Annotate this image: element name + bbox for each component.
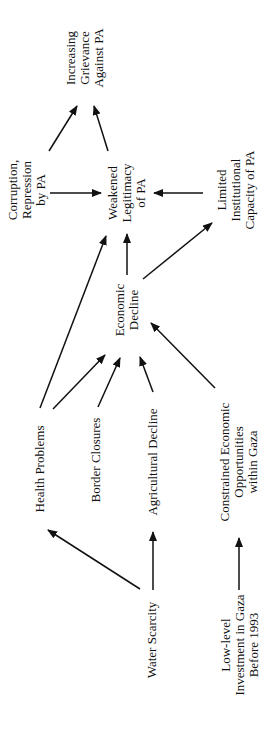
node-line: Capacity of PA	[243, 151, 257, 230]
node-line: Water Scarcity	[145, 602, 159, 679]
node-line: Repression	[20, 160, 34, 220]
arrow-economic-to-capacity	[143, 223, 212, 279]
node-line: Decline	[127, 284, 141, 337]
arrow-border-to-economic	[98, 358, 120, 407]
node-low-level-investment: Low-level Investment in Gaza Before 1993	[219, 594, 261, 695]
causal-diagram: Increasing Grievance Against PA Corrupti…	[0, 0, 278, 737]
arrow-health-to-economic	[53, 355, 105, 409]
node-agricultural-decline: Agricultural Decline	[146, 408, 160, 515]
node-line: Economic	[113, 284, 127, 337]
node-line: Against PA	[92, 28, 106, 87]
node-limited-capacity: Limited Institutional Capacity of PA	[215, 151, 257, 230]
node-weakened-legitimacy: Weakened Legitimacy of PA	[106, 163, 148, 222]
node-line: Limited	[215, 151, 229, 230]
node-line: of PA	[134, 163, 148, 222]
node-line: Opportunities	[232, 403, 246, 522]
node-line: Weakened	[106, 163, 120, 222]
node-line: Border Closures	[89, 418, 103, 503]
node-line: Legitimacy	[120, 163, 134, 222]
node-line: by PA	[34, 160, 48, 220]
arrow-legitimacy-to-grievance	[94, 106, 108, 151]
node-line: Constrained Economic	[218, 403, 232, 522]
arrow-constrained-to-economic	[151, 323, 215, 388]
arrow-health-to-legitimacy	[40, 236, 106, 408]
node-line: Corruption,	[6, 160, 20, 220]
node-line: Health Problems	[33, 425, 47, 512]
node-health-problems: Health Problems	[33, 425, 47, 512]
node-constrained-opportunities: Constrained Economic Opportunities withi…	[218, 403, 260, 522]
node-line: within Gaza	[246, 403, 260, 522]
node-border-closures: Border Closures	[89, 418, 103, 503]
node-increasing-grievance: Increasing Grievance Against PA	[64, 28, 106, 87]
node-line: Institutional	[229, 151, 243, 230]
arrow-water-to-health	[48, 530, 140, 589]
node-line: Grievance	[78, 28, 92, 87]
node-water-scarcity: Water Scarcity	[145, 602, 159, 679]
node-line: Before 1993	[247, 594, 261, 695]
arrow-agri-to-economic	[140, 357, 153, 392]
arrow-corruption-to-grievance	[49, 106, 77, 151]
node-line: Low-level	[219, 594, 233, 695]
node-line: Agricultural Decline	[146, 408, 160, 515]
node-economic-decline: Economic Decline	[113, 284, 141, 337]
node-line: Investment in Gaza	[233, 594, 247, 695]
node-line: Increasing	[64, 28, 78, 87]
node-corruption-repression: Corruption, Repression by PA	[6, 160, 48, 220]
